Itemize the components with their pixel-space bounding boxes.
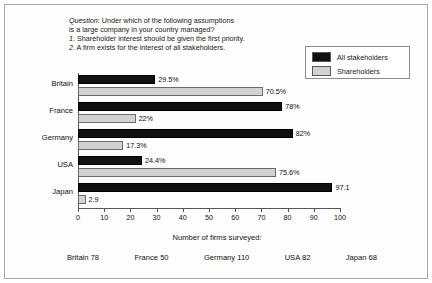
bar-group: 29.5%70.5% xyxy=(78,73,340,100)
axis-tick-label: 80 xyxy=(284,213,292,222)
axis-tick xyxy=(78,208,79,212)
bar-japan-shareholders xyxy=(78,195,86,204)
bar-france-shareholders xyxy=(78,114,136,123)
question-line-1-rest: Under which of the following assumptions xyxy=(102,16,234,25)
bar-group: 82%17.3% xyxy=(78,127,340,154)
category-label-britain: Britain xyxy=(51,79,73,88)
question-lead: Question: xyxy=(69,16,100,25)
axis-tick-label: 60 xyxy=(231,213,239,222)
axis-tick xyxy=(183,208,184,212)
bar-france-all-stakeholders xyxy=(78,102,282,111)
category-axis: BritainFranceGermanyUSAJapan xyxy=(5,73,73,208)
bar-usa-shareholders xyxy=(78,168,276,177)
bar-value-britain-all-stakeholders: 29.5% xyxy=(158,75,178,84)
question-line-1: Question: Under which of the following a… xyxy=(69,16,309,25)
bar-value-france-all-stakeholders: 78% xyxy=(285,102,299,111)
value-axis: 0102030405060708090100 xyxy=(78,208,340,228)
category-label-usa: USA xyxy=(57,160,73,169)
axis-tick-label: 30 xyxy=(153,213,161,222)
axis-tick-label: 100 xyxy=(334,213,346,222)
category-label-france: France xyxy=(49,106,73,115)
axis-tick xyxy=(130,208,131,212)
caption-title: Number of firms surveyed: xyxy=(5,233,429,242)
axis-tick xyxy=(209,208,210,212)
chart-figure: Question: Under which of the following a… xyxy=(4,4,428,279)
bar-value-japan-shareholders: 2.9 xyxy=(89,195,99,204)
bar-japan-all-stakeholders xyxy=(78,183,332,192)
bar-germany-all-stakeholders xyxy=(78,129,293,138)
bar-group: 78%22% xyxy=(78,100,340,127)
category-label-germany: Germany xyxy=(42,133,73,142)
axis-tick-label: 90 xyxy=(310,213,318,222)
caption-row: Britain 78 France 50 Germany 110 USA 82 … xyxy=(67,253,377,262)
axis-tick-label: 20 xyxy=(126,213,134,222)
legend-label-all-stakeholders: All stakeholders xyxy=(337,53,388,62)
bar-value-france-shareholders: 22% xyxy=(139,114,153,123)
axis-tick xyxy=(314,208,315,212)
legend-item-all-stakeholders: All stakeholders xyxy=(312,51,405,63)
bar-britain-all-stakeholders xyxy=(78,75,155,84)
axis-tick-label: 50 xyxy=(205,213,213,222)
bar-germany-shareholders xyxy=(78,141,123,150)
bar-value-usa-all-stakeholders: 24.4% xyxy=(145,156,165,165)
axis-tick xyxy=(261,208,262,212)
axis-tick xyxy=(157,208,158,212)
bar-value-germany-shareholders: 17.3% xyxy=(126,141,146,150)
bar-group: 97.12.9 xyxy=(78,181,340,208)
axis-tick xyxy=(235,208,236,212)
bar-britain-shareholders xyxy=(78,87,263,96)
caption-item-japan: Japan 68 xyxy=(346,253,377,262)
plot-area: 29.5%70.5%78%22%82%17.3%24.4%75.6%97.12.… xyxy=(78,73,340,208)
axis-tick-label: 70 xyxy=(257,213,265,222)
bar-value-japan-all-stakeholders: 97.1 xyxy=(335,183,349,192)
bar-value-britain-shareholders: 70.5% xyxy=(266,87,286,96)
question-line-3: 1. Shareholder interest should be given … xyxy=(69,34,309,43)
axis-tick-label: 0 xyxy=(76,213,80,222)
caption-item-germany: Germany 110 xyxy=(204,253,249,262)
question-line-4: 2. A firm exists for the interest of all… xyxy=(69,43,309,52)
axis-tick-label: 10 xyxy=(100,213,108,222)
question-text: Question: Under which of the following a… xyxy=(69,16,309,52)
axis-tick-label: 40 xyxy=(179,213,187,222)
axis-tick xyxy=(288,208,289,212)
axis-tick xyxy=(104,208,105,212)
caption-item-britain: Britain 78 xyxy=(67,253,99,262)
category-label-japan: Japan xyxy=(52,187,73,196)
axis-tick xyxy=(340,208,341,212)
legend-label-shareholders: Shareholders xyxy=(337,67,380,76)
caption-item-usa: USA 82 xyxy=(285,253,311,262)
legend-swatch-all-stakeholders xyxy=(312,52,331,62)
bar-usa-all-stakeholders xyxy=(78,156,142,165)
bar-group: 24.4%75.6% xyxy=(78,154,340,181)
bar-value-germany-all-stakeholders: 82% xyxy=(296,129,310,138)
question-line-2: is a large company in your country manag… xyxy=(69,25,309,34)
bar-value-usa-shareholders: 75.6% xyxy=(279,168,299,177)
caption-item-france: France 50 xyxy=(134,253,168,262)
